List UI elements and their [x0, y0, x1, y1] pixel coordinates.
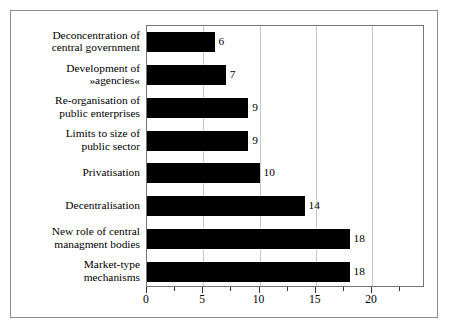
bar — [147, 196, 305, 216]
bar-value-label: 6 — [219, 36, 225, 47]
x-tick-minor — [399, 287, 400, 291]
bar — [147, 65, 226, 85]
x-tick-minor — [287, 287, 288, 291]
category-label: Market-type mechanisms — [12, 258, 140, 283]
category-label: Re-organisation of public enterprises — [12, 94, 140, 119]
bar — [147, 98, 248, 118]
bar-value-label: 18 — [354, 266, 365, 277]
bar-value-label: 14 — [309, 200, 320, 211]
bar — [147, 32, 215, 52]
x-tick-minor — [174, 287, 175, 291]
x-tick-label: 0 — [131, 294, 161, 306]
bar-value-label: 18 — [354, 233, 365, 244]
plot-area: 679910141818 — [146, 25, 424, 287]
gridline-20 — [372, 26, 373, 286]
category-label: New role of central managment bodies — [12, 225, 140, 250]
category-label: Privatisation — [12, 166, 140, 179]
chart-figure: Deconcentration of central governmentDev… — [0, 0, 450, 331]
bar-value-label: 7 — [230, 69, 236, 80]
x-tick-label: 5 — [187, 294, 217, 306]
x-tick-minor — [343, 287, 344, 291]
x-tick-label: 15 — [300, 294, 330, 306]
bar — [147, 163, 260, 183]
x-axis: 05101520 — [146, 287, 424, 317]
bar-value-label: 9 — [252, 135, 258, 146]
category-axis-labels: Deconcentration of central governmentDev… — [14, 25, 144, 287]
category-label: Development of »agencies« — [12, 62, 140, 87]
x-tick-minor — [230, 287, 231, 291]
bar-value-label: 9 — [252, 102, 258, 113]
category-label: Limits to size of public sector — [12, 127, 140, 152]
bar — [147, 229, 350, 249]
category-label: Decentralisation — [12, 199, 140, 212]
x-tick-label: 10 — [244, 294, 274, 306]
bar — [147, 262, 350, 282]
x-tick-label: 20 — [356, 294, 386, 306]
category-label: Deconcentration of central government — [12, 29, 140, 54]
bar — [147, 131, 248, 151]
bar-value-label: 10 — [264, 167, 275, 178]
